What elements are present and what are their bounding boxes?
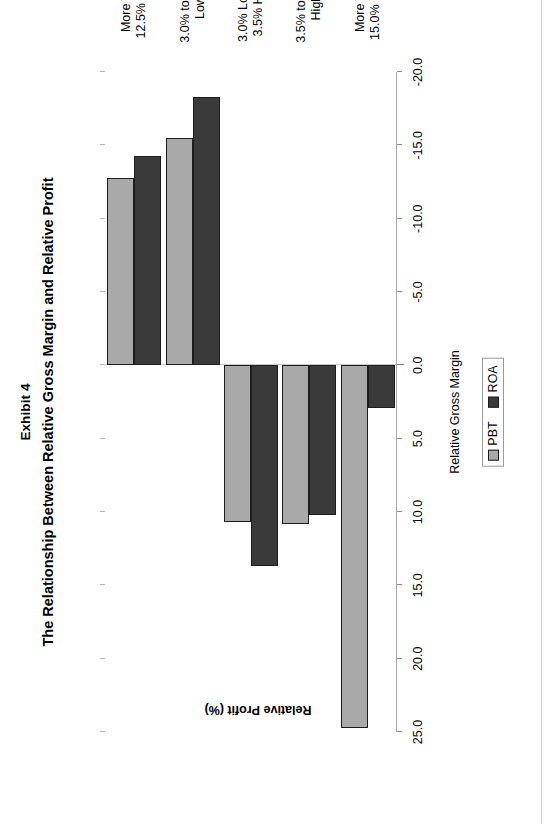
legend-item-roa: ROA [486, 365, 500, 407]
category-label: 3.0% Lower to 3.5% Higher [236, 0, 266, 58]
chart-figure: Exhibit 4 The Relationship Between Relat… [0, 0, 544, 824]
plot-inner: 25.020.015.010.05.00.0-5.0-10.0-15.0-20.… [105, 72, 397, 732]
exhibit-label: Exhibit 4 [16, 0, 35, 824]
legend-swatch-pbt-icon [488, 450, 499, 461]
bar-group [280, 72, 338, 732]
value-axis-tick [397, 511, 402, 512]
value-axis-tick [397, 658, 402, 659]
value-axis-tick-label: 15.0 [411, 573, 425, 597]
bar-roa [193, 97, 220, 365]
category-label: More Than 12.5% Lower [119, 0, 149, 58]
x-axis-title: Relative Gross Margin [448, 0, 462, 824]
bar-roa [368, 365, 395, 408]
value-axis-tick-label: -10.0 [411, 204, 425, 233]
legend-swatch-roa-icon [488, 396, 499, 407]
bar-roa [134, 156, 161, 366]
value-axis-tick [397, 218, 402, 219]
bar-group [339, 72, 397, 732]
legend-item-pbt: PBT [486, 421, 500, 460]
value-axis-tick [397, 144, 402, 145]
chart-title: The Relationship Between Relative Gross … [38, 0, 58, 824]
value-axis-tick-label: 5.0 [411, 430, 425, 447]
value-axis-tick-label: 10.0 [411, 500, 425, 524]
legend-label-roa: ROA [486, 365, 500, 392]
bar-pbt [341, 365, 368, 727]
value-axis-tick [397, 584, 402, 585]
value-axis-tick [397, 438, 402, 439]
value-axis-tick-label: 0.0 [411, 357, 425, 374]
plot-area: 25.020.015.010.05.00.0-5.0-10.0-15.0-20.… [105, 72, 397, 732]
value-axis-tick-label: -20.0 [411, 58, 425, 87]
page-bottom-rule [541, 0, 542, 824]
bar-group [105, 72, 163, 732]
bar-roa [309, 365, 336, 515]
value-axis-tick-label: -5.0 [411, 281, 425, 303]
category-label: More Than 15.0% Higher [353, 0, 383, 58]
legend-label-pbt: PBT [486, 421, 500, 445]
value-axis-tick [397, 71, 402, 72]
value-axis-tick [397, 364, 404, 365]
bar-pbt [107, 178, 134, 366]
title-block: Exhibit 4 The Relationship Between Relat… [16, 0, 58, 824]
value-axis-tick [397, 731, 402, 732]
chart-legend: PBT ROA [482, 357, 504, 466]
bar-group [163, 72, 221, 732]
bar-roa [251, 365, 278, 566]
bar-pbt [282, 365, 309, 523]
chart-figure-rotator: Exhibit 4 The Relationship Between Relat… [0, 0, 544, 824]
value-axis-tick-label: 25.0 [411, 720, 425, 744]
bar-pbt [224, 365, 251, 522]
category-label: 3.0% to 12.5% Lower [178, 0, 208, 58]
value-axis-tick-label: 20.0 [411, 647, 425, 671]
bar-pbt [166, 138, 193, 365]
category-label: 3.5% to 15.0% Higher [294, 0, 324, 58]
bar-group [222, 72, 280, 732]
value-axis-tick [397, 291, 402, 292]
value-axis-tick-label: -15.0 [411, 131, 425, 160]
